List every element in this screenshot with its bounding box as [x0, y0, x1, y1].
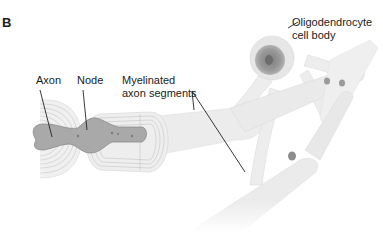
myelinated-label-line2: axon segments — [122, 87, 197, 100]
myelinated-label-line1: Myelinated — [122, 74, 197, 87]
oligodendrocyte-label-line2: cell body — [292, 29, 372, 42]
axon-label: Axon — [36, 74, 61, 87]
panel-letter: B — [2, 15, 11, 30]
myelinated-label: Myelinated axon segments — [122, 74, 197, 100]
myelination-diagram: B Axon Node Myelinated axon segments Oli… — [0, 0, 383, 233]
oligodendrocyte-label-line1: Oligodendrocyte — [292, 16, 372, 29]
node-label: Node — [77, 74, 103, 87]
oligodendrocyte-label: Oligodendrocyte cell body — [292, 16, 372, 42]
oligodendrocyte-cell-body — [250, 36, 294, 80]
